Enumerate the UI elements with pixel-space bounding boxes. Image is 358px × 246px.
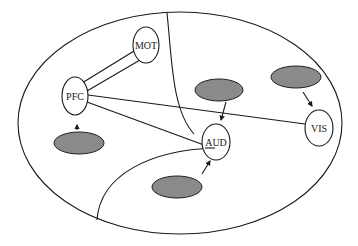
node-pfc-label: PFC <box>66 91 84 102</box>
arrow-aud-bottom-input-icon <box>202 161 210 174</box>
node-mot: MOT <box>133 27 159 63</box>
input-blob-aud-top <box>195 79 243 101</box>
node-vis-label: VIS <box>311 123 327 134</box>
divider-curve-vertical <box>167 13 194 134</box>
input-blob-aud-bottom <box>152 176 202 198</box>
input-blob-pfc <box>54 132 104 154</box>
node-vis: VIS <box>305 110 333 146</box>
node-pfc: PFC <box>62 77 88 115</box>
node-aud-label: AUD <box>205 137 227 148</box>
node-aud: AUD <box>202 124 230 160</box>
brain-diagram: MOT PFC AUD VIS <box>0 0 358 246</box>
connection-pfc-vis <box>88 95 305 124</box>
arrow-vis-input-icon <box>303 92 312 106</box>
node-mot-label: MOT <box>135 40 157 51</box>
input-blob-vis <box>271 66 321 88</box>
arrow-aud-top-input-icon <box>221 102 226 120</box>
